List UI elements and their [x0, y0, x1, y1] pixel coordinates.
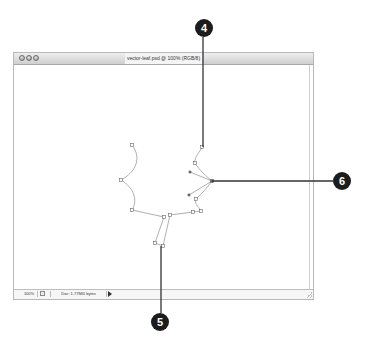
callout-6-badge: 6	[333, 172, 351, 190]
callout-4-number: 4	[201, 22, 207, 34]
leaf-path-overlay	[0, 0, 367, 349]
callout-5-badge: 5	[151, 313, 169, 331]
callout-leader-lines	[161, 37, 333, 313]
leaf-vector-path[interactable]	[121, 145, 212, 246]
callout-6-number: 6	[339, 175, 345, 187]
callout-4-badge: 4	[195, 19, 213, 37]
callout-5-number: 5	[157, 316, 163, 328]
